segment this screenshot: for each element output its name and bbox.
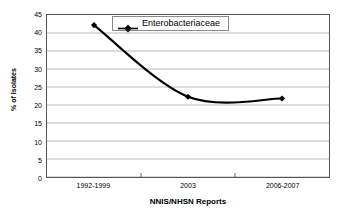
y-tick-label: 20 [34, 102, 42, 109]
series-line [94, 25, 282, 103]
y-tick-label: 40 [34, 29, 42, 36]
x-axis-title: NNIS/NHSN Reports [46, 198, 330, 206]
legend-marker-diamond-line [118, 19, 138, 28]
x-tick-label: 2003 [180, 182, 196, 189]
x-axis-tick-labels: 1992-199920032006-2007 [46, 182, 330, 194]
x-tick-label: 1992-1999 [77, 182, 110, 189]
legend-label: Enterobacteriaceae [142, 19, 220, 28]
data-point-marker [279, 95, 285, 101]
y-tick-label: 0 [38, 175, 42, 182]
y-axis-title-text: % of Isolates [10, 68, 17, 111]
y-tick-label: 15 [34, 120, 42, 127]
y-tick-label: 45 [34, 11, 42, 18]
y-axis-tick-labels: 454035302520151050 [22, 14, 42, 178]
chart-legend: Enterobacteriaceae [112, 16, 229, 31]
y-tick-label: 25 [34, 83, 42, 90]
x-tick-label: 2006-2007 [266, 182, 299, 189]
y-tick-label: 5 [38, 156, 42, 163]
data-point-marker [185, 94, 191, 100]
y-tick-label: 10 [34, 138, 42, 145]
series-enterobacteriaceae [91, 22, 285, 103]
chart-container: % of Isolates 454035302520151050 Enterob… [0, 0, 342, 217]
x-axis-tick-marks [141, 173, 235, 177]
y-tick-label: 35 [34, 47, 42, 54]
y-axis-title: % of Isolates [6, 0, 20, 178]
y-tick-label: 30 [34, 65, 42, 72]
gridlines [47, 33, 329, 177]
plot-svg [47, 15, 329, 177]
plot-area [46, 14, 330, 178]
